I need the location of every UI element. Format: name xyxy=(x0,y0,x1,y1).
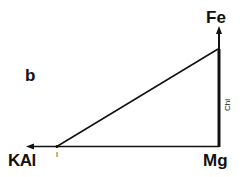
chl-label: Chl xyxy=(224,99,232,111)
panel-label: b xyxy=(25,67,35,84)
triangle-diagram: Fe KAl Mg b Chl I xyxy=(0,0,248,177)
diagonal-edge xyxy=(56,49,218,147)
mg-label: Mg xyxy=(203,152,228,169)
kal-label: KAl xyxy=(8,152,36,169)
fe-label: Fe xyxy=(206,9,226,26)
tick-mark-label: I xyxy=(56,151,58,158)
diagonal-start-point xyxy=(56,145,59,148)
